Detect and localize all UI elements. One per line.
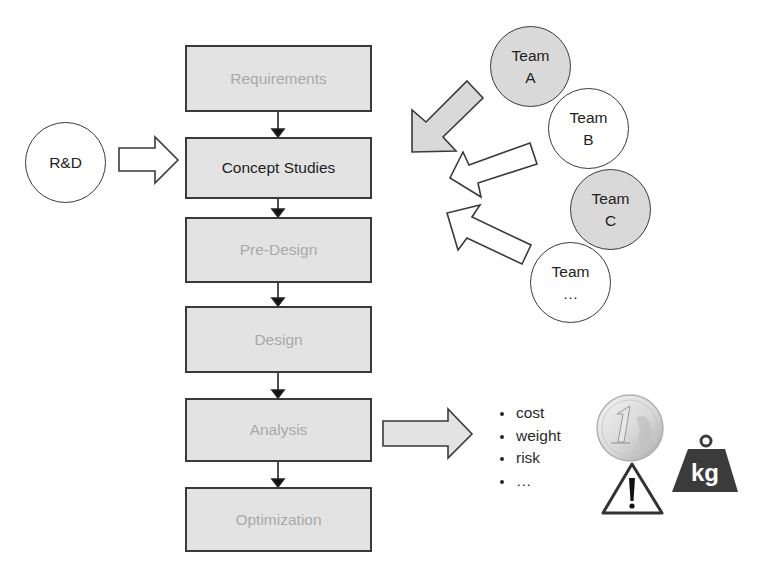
team-b-line1: Team — [570, 107, 608, 129]
analysis-output-arrow — [383, 409, 472, 458]
team-c-line2: C — [592, 210, 630, 232]
team-a-arrow — [412, 81, 483, 152]
stage-analysis: Analysis — [185, 398, 372, 462]
team-b-line2: B — [570, 129, 608, 151]
team-a-line2: A — [512, 67, 550, 89]
team-etc-circle: Team … — [530, 242, 611, 323]
criteria-item-more: … — [496, 470, 561, 493]
warning-icon — [603, 464, 662, 513]
stage-requirements: Requirements — [185, 45, 372, 112]
kg-weight-icon: kg — [672, 436, 738, 492]
rnd-arrow — [119, 137, 178, 183]
stage-design: Design — [185, 306, 372, 373]
team-a-circle: Team A — [490, 26, 571, 107]
criteria-item-cost: cost — [496, 402, 561, 425]
team-a-line1: Team — [512, 45, 550, 67]
diagram-canvas: kg Requirements Concept Studies Pre-Desi… — [0, 0, 757, 575]
team-etc-line1: Team — [552, 261, 590, 283]
svg-text:kg: kg — [691, 459, 719, 486]
stage-pre-design: Pre-Design — [185, 217, 372, 283]
team-c-circle: Team C — [570, 169, 651, 250]
team-b-arrow — [450, 143, 537, 197]
rnd-circle: R&D — [25, 122, 106, 203]
team-b-circle: Team B — [548, 88, 629, 169]
euro-coin-icon — [597, 395, 663, 461]
stage-concept-studies: Concept Studies — [185, 137, 372, 199]
team-c-line1: Team — [592, 188, 630, 210]
criteria-item-risk: risk — [496, 447, 561, 470]
rnd-label: R&D — [49, 152, 82, 174]
connectors-layer: kg — [0, 0, 757, 575]
criteria-item-weight: weight — [496, 425, 561, 448]
team-etc-line2: … — [552, 283, 590, 305]
stage-optimization: Optimization — [185, 487, 372, 552]
team-etc-arrow — [447, 205, 531, 264]
criteria-list: cost weight risk … — [496, 402, 561, 492]
